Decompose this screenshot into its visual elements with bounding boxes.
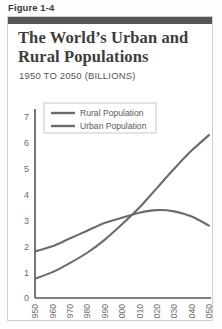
x-tick-2040: 2040 — [187, 304, 197, 319]
chart-panel: The World’s Urban and Rural Populations … — [7, 16, 213, 321]
x-tick-2030: 2030 — [169, 304, 179, 319]
figure-container: Figure 1-4 The World’s Urban and Rural P… — [0, 0, 222, 329]
x-tick-1970: 1970 — [65, 304, 75, 319]
legend-label-0: Rural Population — [80, 108, 144, 118]
chart-subtitle: 1950 TO 2050 (BILLIONS) — [19, 70, 136, 81]
chart-legend: Rural PopulationUrban Population — [44, 103, 156, 133]
y-tick-5: 5 — [24, 164, 29, 174]
y-tick-3: 3 — [24, 216, 29, 226]
series-lines — [35, 135, 209, 279]
x-tick-2020: 2020 — [152, 304, 162, 319]
x-tick-2050: 2050 — [204, 304, 214, 319]
plot-area: 01234567 1950196019701980199020002010202… — [8, 87, 214, 319]
y-tick-7: 7 — [24, 112, 29, 122]
x-tick-1950: 1950 — [30, 304, 40, 319]
x-tick-2010: 2010 — [135, 304, 145, 319]
y-tick-2: 2 — [24, 242, 29, 252]
line-chart: 01234567 1950196019701980199020002010202… — [8, 87, 214, 319]
x-tick-2000: 2000 — [117, 304, 127, 319]
y-tick-0: 0 — [24, 293, 29, 303]
x-tick-1990: 1990 — [100, 304, 110, 319]
series-line-rural-population — [35, 210, 209, 251]
x-axis-tick-labels: 1950196019701980199020002010202020302040… — [30, 304, 214, 319]
y-axis-tick-labels: 01234567 — [24, 112, 29, 303]
panel-top-bar — [8, 17, 212, 24]
x-tick-1980: 1980 — [82, 304, 92, 319]
y-tick-6: 6 — [24, 138, 29, 148]
figure-label: Figure 1-4 — [8, 2, 54, 13]
series-line-urban-population — [35, 135, 209, 279]
y-tick-1: 1 — [24, 268, 29, 278]
chart-title: The World’s Urban and Rural Populations — [18, 29, 208, 66]
x-tick-1960: 1960 — [48, 304, 58, 319]
legend-label-1: Urban Population — [80, 121, 147, 131]
y-tick-4: 4 — [24, 190, 29, 200]
